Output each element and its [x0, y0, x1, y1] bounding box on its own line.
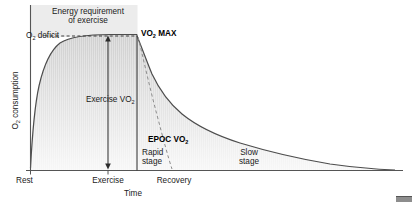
slow-stage-line2: stage: [232, 157, 266, 166]
oxygen-consumption-chart: Energy requirement of exercise O2 defici…: [0, 0, 413, 203]
slow-stage-label: Slow stage: [232, 148, 266, 166]
exercise-vo2-prefix: Exercise VO: [86, 95, 132, 104]
energy-requirement-label: Energy requirement of exercise: [49, 7, 127, 25]
vo2-max-label: VO2 MAX: [141, 29, 176, 38]
x-tick-label-rest: Rest: [16, 176, 33, 185]
o2-deficit-text: deficit: [35, 31, 59, 40]
slow-stage-line1: Slow: [232, 148, 266, 157]
corner-watermark: [396, 196, 412, 202]
y-axis-title-prefix: O: [11, 123, 20, 129]
rapid-stage-line1: Rapid: [142, 148, 163, 157]
exercise-vo2-subscript: 2: [132, 99, 135, 105]
y-axis-title-subscript: 2: [14, 120, 20, 123]
epoc-vo2-label: EPOC VO2: [148, 135, 188, 144]
vo2-max-suffix: MAX: [156, 29, 176, 38]
epoc-vo2-subscript: 2: [185, 139, 188, 145]
rapid-stage-line2: stage: [142, 157, 163, 166]
o2-deficit-label: O2 deficit: [26, 31, 59, 40]
x-tick-label-exercise: Exercise: [83, 176, 133, 185]
vo2-max-prefix: VO: [141, 29, 153, 38]
rapid-stage-label: Rapid stage: [142, 148, 163, 166]
chart-canvas: [0, 0, 413, 203]
energy-requirement-line2: of exercise: [49, 16, 127, 25]
epoc-vo2-prefix: EPOC VO: [148, 135, 185, 144]
y-axis-title-suffix: consumption: [11, 71, 20, 120]
vo2-max-subscript: 2: [153, 33, 156, 39]
exercise-vo2-label: Exercise VO2: [86, 95, 135, 104]
x-tick-label-recovery: Recovery: [146, 176, 202, 185]
y-axis-title: O2 consumption: [11, 59, 20, 143]
x-axis-title: Time: [110, 189, 156, 198]
energy-requirement-line1: Energy requirement: [49, 7, 127, 16]
